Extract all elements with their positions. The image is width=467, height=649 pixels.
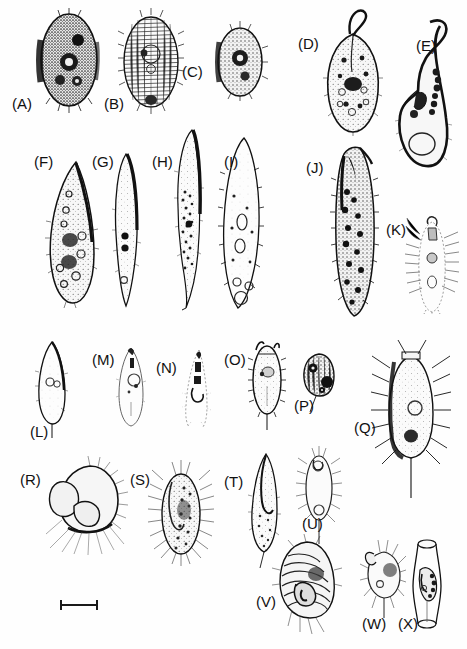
cell-body-j [330,147,379,316]
figure-h [168,128,208,310]
figure-b [118,12,184,112]
cell-body-h [174,130,204,310]
panel-label-p: (P) [294,398,314,413]
panel-label-i: (I) [224,154,238,169]
cell-body-s [148,460,214,566]
figure-q [380,348,442,478]
figure-v [276,540,338,622]
panel-label-t: (T) [224,474,243,489]
cell-body-n [182,350,211,427]
scale-bar [60,604,98,614]
panel-label-k: (K) [386,222,406,237]
figure-k [404,214,460,314]
cell-body-w [360,540,406,618]
scale-bar-cap-left [60,600,62,610]
cell-body-k [405,217,459,314]
panel-label-c: (C) [182,64,203,79]
scale-bar-cap-right [96,600,98,610]
figure-o [248,338,286,430]
figure-d [322,8,384,136]
panel-label-d: (D) [298,36,319,51]
panel-label-q: (Q) [354,420,376,435]
cell-body-b [118,8,184,114]
cell-body-r [46,456,128,555]
cell-body-o [248,342,286,430]
figure-n [180,348,212,428]
panel-label-u: (U) [302,516,323,531]
panel-label-n: (N) [156,360,177,375]
figure-i [214,136,268,312]
panel-label-l: (L) [30,424,48,439]
illustration-plate: (A) (B) (C) (D) (E) (F) (G) (H) (I) (J) … [0,0,467,649]
panel-label-m: (M) [92,352,115,367]
cell-body-m [116,348,146,426]
panel-label-f: (F) [34,154,53,169]
figure-p [300,352,338,400]
figure-j [330,140,380,320]
panel-label-a: (A) [12,96,32,111]
cell-body-d [323,11,383,136]
figure-r [46,462,130,548]
cell-body-q [371,340,451,498]
panel-label-b: (B) [104,96,124,111]
cell-body-v [272,534,342,634]
cell-body-g [112,154,141,306]
panel-label-s: (S) [130,472,150,487]
panel-label-x: (X) [398,616,418,631]
figure-l [32,340,72,430]
figure-w [362,540,406,614]
cell-body-a [40,8,98,113]
figure-m [114,344,148,428]
figure-c [212,20,268,100]
figure-a [36,10,102,112]
panel-label-h: (H) [152,154,173,169]
cell-body-c [218,21,269,101]
panel-label-j: (J) [306,160,324,175]
panel-label-g: (G) [92,154,114,169]
cell-body-f [45,162,99,308]
figure-g [108,150,144,310]
panel-label-e: (E) [416,38,436,53]
panel-label-r: (R) [20,472,41,487]
scale-bar-rule [60,604,98,606]
panel-label-w: (W) [362,616,386,631]
figure-f [42,158,100,308]
panel-label-v: (V) [256,594,276,609]
figure-s [148,460,214,566]
panel-label-o: (O) [224,352,246,367]
